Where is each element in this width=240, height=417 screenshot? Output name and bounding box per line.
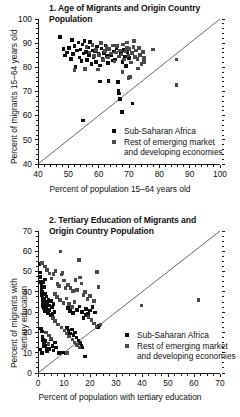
- x-tick-label: 60: [182, 379, 206, 387]
- x-major-tick: [159, 165, 160, 168]
- x-minor-tick: [135, 374, 136, 376]
- y-minor-tick: [36, 286, 38, 287]
- panel-1-legend-item-emde: Rest of emerging market: [112, 137, 223, 148]
- data-point-emde: [70, 305, 74, 309]
- data-point-emde: [78, 276, 82, 280]
- x-minor-tick: [174, 374, 175, 376]
- y-right-minor-tick: [222, 362, 224, 363]
- y-minor-tick: [36, 256, 38, 257]
- x-tick-label: 30: [104, 379, 128, 387]
- x-major-tick: [220, 374, 221, 377]
- data-point-emde: [50, 277, 54, 281]
- y-right-minor-tick: [222, 33, 224, 34]
- panel-2-legend-item-emde: Rest of emerging market: [125, 341, 236, 352]
- y-tick-label: 40: [10, 288, 32, 296]
- x-tick-label: 40: [130, 379, 154, 387]
- legend-swatch-emde-icon: [112, 140, 116, 144]
- x-major-tick: [189, 165, 190, 168]
- data-point-emde: [175, 58, 179, 62]
- x-minor-tick: [62, 165, 63, 167]
- y-right-minor-tick: [222, 77, 224, 78]
- x-minor-tick: [80, 165, 81, 167]
- panel-1-x-axis-label: Percent of population 15–64 years old: [0, 184, 240, 194]
- data-point-ssa: [53, 341, 57, 345]
- data-point-emde: [92, 54, 96, 58]
- y-minor-tick: [36, 154, 38, 155]
- figure-container: 1. Age of Migrants and Origin Country Po…: [0, 0, 240, 417]
- data-point-emde: [136, 57, 140, 61]
- y-right-minor-tick: [222, 101, 224, 102]
- data-point-emde: [101, 58, 105, 62]
- y-minor-tick: [36, 159, 38, 160]
- y-right-minor-tick: [222, 23, 224, 24]
- data-point-emde: [99, 41, 103, 45]
- y-right-major-tick: [222, 19, 225, 20]
- y-tick-label: 40: [10, 160, 32, 168]
- x-tick-label: 80: [147, 170, 171, 178]
- y-right-major-tick: [222, 67, 225, 68]
- x-minor-tick: [207, 165, 208, 167]
- x-tick-label: 70: [117, 170, 141, 178]
- data-point-ssa: [40, 351, 44, 355]
- y-minor-tick: [36, 357, 38, 358]
- y-right-minor-tick: [222, 38, 224, 39]
- data-point-ssa: [83, 39, 87, 43]
- data-point-emde: [92, 299, 96, 303]
- data-point-emde: [62, 279, 66, 283]
- data-point-emde: [54, 269, 58, 273]
- data-point-ssa: [71, 52, 75, 56]
- data-point-emde: [97, 285, 101, 289]
- panel-1-legend-item-ssa: Sub-Saharan Africa: [112, 126, 223, 137]
- y-minor-tick: [36, 52, 38, 53]
- data-point-emde: [83, 290, 87, 294]
- y-right-minor-tick: [222, 317, 224, 318]
- x-minor-tick: [92, 165, 93, 167]
- x-minor-tick: [200, 374, 201, 376]
- y-minor-tick: [36, 120, 38, 121]
- data-point-emde: [120, 53, 124, 57]
- y-right-minor-tick: [222, 81, 224, 82]
- y-tick-label: 100: [10, 15, 32, 23]
- y-minor-tick: [36, 106, 38, 107]
- panel-2-legend: Sub-Saharan Africa Rest of emerging mark…: [125, 330, 236, 362]
- x-minor-tick: [135, 165, 136, 167]
- data-point-ssa: [77, 41, 81, 45]
- y-minor-tick: [36, 317, 38, 318]
- data-point-emde: [77, 258, 81, 262]
- y-major-tick: [35, 291, 38, 292]
- data-point-emde: [96, 68, 100, 72]
- x-major-tick: [220, 165, 221, 168]
- data-point-ssa: [81, 119, 85, 123]
- y-minor-tick: [36, 62, 38, 63]
- y-minor-tick: [36, 110, 38, 111]
- x-minor-tick: [51, 374, 52, 376]
- y-right-minor-tick: [222, 302, 224, 303]
- data-point-emde: [88, 294, 92, 298]
- y-tick-label: 80: [10, 63, 32, 71]
- x-minor-tick: [116, 165, 117, 167]
- y-minor-tick: [36, 135, 38, 136]
- data-point-ssa: [69, 57, 73, 61]
- y-right-minor-tick: [222, 120, 224, 121]
- data-point-ssa: [75, 308, 79, 312]
- data-point-emde: [151, 48, 155, 52]
- y-right-minor-tick: [222, 256, 224, 257]
- data-point-ssa: [42, 285, 46, 289]
- y-minor-tick: [36, 302, 38, 303]
- x-minor-tick: [183, 165, 184, 167]
- x-tick-label: 70: [208, 379, 232, 387]
- data-point-ssa: [73, 331, 77, 335]
- y-minor-tick: [36, 276, 38, 277]
- data-point-ssa: [106, 61, 110, 65]
- x-minor-tick: [181, 374, 182, 376]
- data-point-ssa: [52, 302, 56, 306]
- y-minor-tick: [36, 261, 38, 262]
- y-minor-tick: [36, 236, 38, 237]
- data-point-emde: [83, 67, 87, 71]
- data-point-emde: [85, 45, 89, 49]
- data-point-emde: [141, 50, 145, 54]
- data-point-emde: [197, 298, 201, 302]
- data-point-ssa: [58, 35, 62, 39]
- panel-2-legend-label-emde-2: and developing economies: [125, 351, 236, 362]
- panel-1-title-line1: 1. Age of Migrants and Origin Country: [49, 3, 200, 13]
